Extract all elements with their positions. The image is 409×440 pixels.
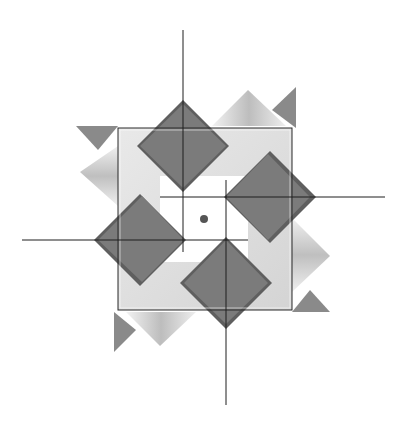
flap-top-left	[76, 126, 118, 150]
panel-right	[292, 218, 330, 292]
pinwheel-diagram	[0, 0, 409, 440]
flap-bottom-right	[292, 290, 330, 312]
center-dot	[200, 215, 208, 223]
panel-left	[80, 146, 118, 206]
panel-bottom	[126, 312, 196, 346]
